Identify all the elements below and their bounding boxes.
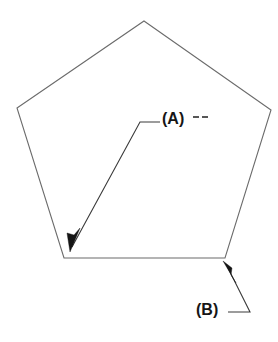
pentagon-shape [17, 21, 271, 258]
figure-container: (A) (B) [0, 0, 278, 342]
callout-label-a: (A) [162, 111, 184, 127]
callout-label-b: (B) [196, 302, 218, 318]
figure-drawing-canvas [0, 0, 278, 342]
arrowhead-b-icon [223, 261, 236, 283]
